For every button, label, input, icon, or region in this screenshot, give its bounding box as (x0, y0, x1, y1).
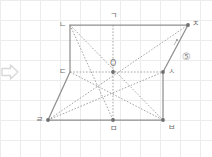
grid-layer (0, 0, 212, 157)
vertex-label-r: ㄹ (36, 116, 43, 124)
vertex-label-j: ㅈ (192, 20, 199, 28)
dashed-edge-layer (48, 25, 188, 120)
vertex-label-d: ㄷ (59, 68, 66, 76)
vertex-label-g: ㄱ (110, 12, 117, 20)
vertex-label-s: ㅅ (168, 68, 175, 76)
callout-label-5: ⑤ (182, 52, 191, 62)
vertex-dot-r (46, 118, 50, 122)
vertex-label-m: ㅁ (110, 125, 117, 133)
figure-canvas: ㄴㄱㅈㄷOㅅㄹㅁㅂ⑤ (0, 0, 212, 157)
vertex-dot-j (186, 23, 190, 27)
callout-anchor-dot (176, 39, 178, 41)
vertex-label-o: O (110, 60, 116, 68)
vertex-dot-b (161, 118, 165, 122)
diag-n-b (70, 25, 163, 120)
geometry-figure (0, 0, 212, 157)
diag-d-b (70, 72, 163, 120)
vertex-label-n: ㄴ (59, 21, 66, 29)
diag-r-s (48, 72, 163, 120)
diag-r-j (48, 25, 188, 120)
vertex-dot-s (161, 70, 165, 74)
diag-n-m (70, 25, 113, 120)
vertex-dot-m (111, 118, 115, 122)
arrow-right-outline-icon (2, 65, 18, 79)
vertex-dot-o (111, 70, 115, 74)
edge-s-j (163, 25, 188, 72)
vertex-label-b: ㅂ (168, 124, 175, 132)
